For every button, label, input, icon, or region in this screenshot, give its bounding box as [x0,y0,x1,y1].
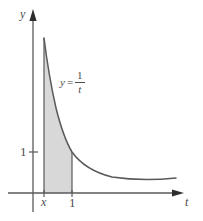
equation-equals-sign: = [67,77,73,88]
x-tick-label-1: 1 [69,196,76,209]
equation-denominator: t [76,83,83,95]
x-axis-arrowhead-icon [172,189,184,196]
equation-fraction: 1 t [75,70,85,95]
x-axis-label: t [185,196,188,208]
equation-numerator: 1 [75,70,85,82]
equation-left-side: y [60,77,65,88]
figure-container: y t 1 x 1 y = 1 t [0,0,203,221]
y-tick-label-1: 1 [20,145,27,158]
x-tick-label-x: x [41,196,46,208]
curve-equation-label: y = 1 t [60,70,85,95]
y-axis-arrowhead-icon [29,9,36,21]
graph-canvas [0,0,203,221]
y-axis-label: y [20,8,25,20]
